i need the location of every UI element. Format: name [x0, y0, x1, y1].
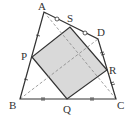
label-p: P [21, 50, 27, 62]
tick-ap [36, 35, 40, 36]
label-q: Q [63, 103, 71, 115]
diagram-canvas: A S D P R B Q C [0, 0, 134, 122]
label-s: S [67, 12, 73, 24]
tick-pb [24, 79, 28, 80]
label-a: A [38, 0, 46, 12]
tick-dr-2 [101, 54, 105, 55]
label-b: B [9, 99, 16, 111]
label-c: C [117, 99, 124, 111]
label-r: R [109, 64, 117, 76]
mark-sd [83, 31, 87, 35]
mark-as [55, 17, 59, 21]
label-d: D [97, 26, 105, 38]
tick-dr-1 [100, 52, 104, 53]
geometry-diagram: A S D P R B Q C [0, 0, 134, 122]
